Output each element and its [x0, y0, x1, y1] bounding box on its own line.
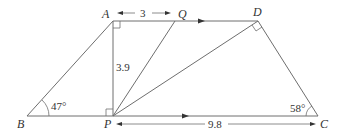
angle-arc-c: [306, 106, 312, 116]
angle-b-label: 47°: [51, 100, 66, 112]
parallel-arrow-ad: [198, 19, 205, 24]
dimension-arrow-a: [117, 11, 123, 15]
right-angle-p: [106, 109, 113, 116]
right-angle-d: [252, 25, 262, 31]
dimension-arrow-p: [116, 122, 122, 126]
segment-ab: [27, 21, 113, 116]
dimension-arrow-q: [165, 11, 171, 15]
angle-c-label: 58°: [290, 102, 305, 114]
label-c: C: [320, 117, 329, 131]
label-q: Q: [178, 7, 187, 21]
segment-dc: [258, 21, 318, 116]
geometry-diagram: A Q D B P C 3 3.9 9.8 47° 58°: [0, 0, 344, 137]
label-a: A: [101, 7, 110, 21]
measure-aq: 3: [140, 7, 146, 19]
parallel-arrow-bc: [182, 114, 189, 119]
measure-ap: 3.9: [116, 61, 130, 73]
label-p: P: [103, 117, 112, 131]
label-b: B: [17, 117, 25, 131]
label-d: D: [252, 5, 262, 19]
measure-pc: 9.8: [208, 118, 222, 130]
dimension-arrow-c: [310, 122, 316, 126]
right-angle-a: [113, 21, 120, 28]
angle-arc-b: [42, 100, 49, 116]
segment-pd: [113, 21, 258, 116]
diagram-svg: A Q D B P C 3 3.9 9.8 47° 58°: [0, 0, 344, 137]
